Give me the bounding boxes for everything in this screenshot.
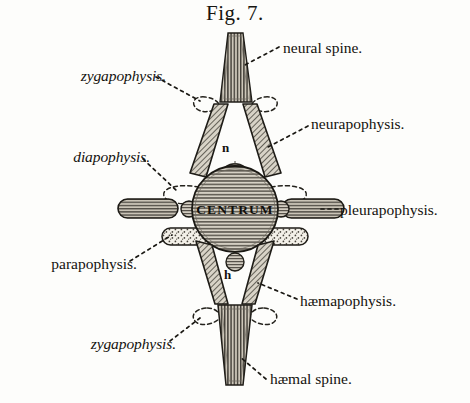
label-pleurapophysis: pleurapophysis. xyxy=(340,202,438,218)
label-neural-spine: neural spine. xyxy=(283,40,362,56)
pleurapophysis-left-shape xyxy=(118,199,178,218)
zygapophysis-lower-left-outline xyxy=(193,308,220,325)
label-diapophysis: diapophysis. xyxy=(0,149,150,165)
haemal-spine-shape xyxy=(218,305,252,385)
leader-neurapophysis xyxy=(266,126,308,148)
centrum-label: CENTRUM xyxy=(196,202,273,217)
label-neurapophysis: neurapophysis. xyxy=(311,116,404,132)
label-zygapophysis-top: zygapophysis. xyxy=(0,68,166,84)
neural-spine-shape xyxy=(220,33,252,102)
label-haemal-spine: hæmal spine. xyxy=(270,371,352,387)
neurapophysis-right-shape xyxy=(243,104,281,177)
marker-haemal-canal: h xyxy=(224,267,231,283)
leader-neural-spine xyxy=(243,47,279,66)
label-parapophysis: parapophysis. xyxy=(0,256,137,272)
label-haemapophysis: hæmapophysis. xyxy=(300,293,396,309)
leader-haemapophysis xyxy=(258,283,297,299)
marker-neural-canal: n xyxy=(222,140,229,156)
zygapophysis-lower-right-outline xyxy=(250,308,277,325)
label-zygapophysis-bottom: zygapophysis. xyxy=(0,336,176,352)
figure-container: Fig. 7. xyxy=(0,0,470,403)
